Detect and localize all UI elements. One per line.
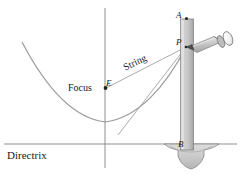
parabola-curve: [22, 42, 186, 122]
point-a-label: A: [176, 11, 182, 20]
figure-canvas: [0, 0, 241, 174]
point-e-label: E: [106, 79, 112, 88]
pole-upright: [181, 19, 194, 150]
point-p-label: P: [176, 38, 182, 47]
focus-label: Focus: [68, 83, 92, 93]
directrix-label: Directrix: [7, 150, 47, 161]
point-a-marker: [185, 17, 188, 20]
point-p-marker: [185, 46, 188, 49]
parabola-construction-figure: Directrix Focus E A P B String: [0, 0, 241, 174]
point-b-label: B: [178, 140, 184, 149]
